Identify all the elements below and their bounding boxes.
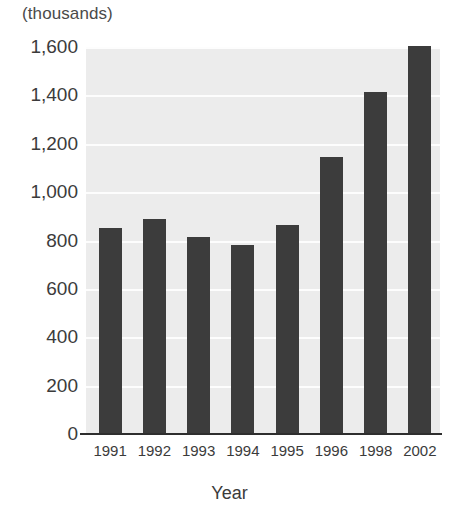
x-tick-label-1994: 1994	[220, 441, 266, 461]
x-axis-line	[80, 433, 442, 435]
y-axis-tick-labels: 02004006008001,0001,2001,4001,600	[0, 0, 78, 523]
bar-1992	[143, 219, 166, 434]
y-tick-label-1400: 1,400	[0, 85, 78, 104]
x-tick-label-1992: 1992	[131, 441, 177, 461]
bar-1995	[276, 225, 299, 434]
y-tick-label-1600: 1,600	[0, 37, 78, 56]
y-tick-label-800: 800	[0, 231, 78, 250]
bar-1993	[187, 237, 210, 434]
y-tick-label-1200: 1,200	[0, 134, 78, 153]
bar-chart: (thousands) 02004006008001,0001,2001,400…	[0, 0, 459, 523]
x-tick-label-1993: 1993	[176, 441, 222, 461]
y-tick-label-400: 400	[0, 327, 78, 346]
x-tick-label-1995: 1995	[264, 441, 310, 461]
x-axis-title: Year	[0, 483, 459, 504]
bar-1998	[364, 92, 387, 434]
x-tick-label-2002: 2002	[397, 441, 443, 461]
bar-2002	[408, 46, 431, 434]
bar-1996	[320, 157, 343, 434]
y-tick-label-600: 600	[0, 279, 78, 298]
bar-1991	[99, 228, 122, 434]
x-axis-tick-labels: 19911992199319941995199619982002	[86, 441, 446, 467]
x-tick-label-1998: 1998	[353, 441, 399, 461]
x-tick-label-1996: 1996	[308, 441, 354, 461]
y-tick-label-0: 0	[0, 424, 78, 443]
y-tick-label-200: 200	[0, 376, 78, 395]
bar-1994	[231, 245, 254, 434]
y-tick-label-1000: 1,000	[0, 182, 78, 201]
x-tick-label-1991: 1991	[87, 441, 133, 461]
bars-layer	[86, 47, 440, 434]
plot-area	[86, 47, 440, 434]
